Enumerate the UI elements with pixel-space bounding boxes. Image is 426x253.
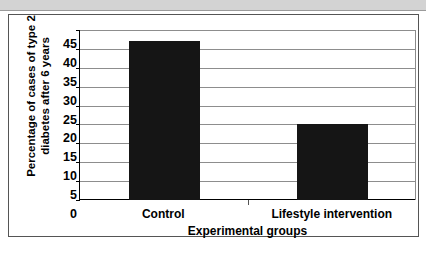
- y-tick-label-10: 10: [53, 170, 77, 182]
- y-tick-label-20: 20: [53, 132, 77, 144]
- x-tick-label-control: Control: [142, 207, 185, 221]
- chart-frame: Percentage of cases of type 2 diabetes a…: [8, 14, 419, 237]
- chart-figure: Percentage of cases of type 2 diabetes a…: [0, 0, 426, 253]
- bar-lifestyle-intervention[interactable]: [297, 124, 368, 200]
- y-axis-tick-labels: 454035302520151050: [53, 37, 77, 207]
- x-axis-tick-labels: ControlLifestyle intervention: [79, 207, 416, 225]
- y-tick-label-5: 5: [53, 189, 77, 201]
- y-axis-title: Percentage of cases of type 2 diabetes a…: [21, 11, 55, 181]
- top-gray-strip: [0, 0, 426, 11]
- category-separator-1: [248, 200, 249, 205]
- y-axis-title-line-1: Percentage of cases of type 2: [24, 15, 38, 177]
- y-tick-label-45: 45: [53, 38, 77, 50]
- y-tickmark-0: [76, 200, 80, 201]
- x-axis-title: Experimental groups: [79, 224, 416, 238]
- bar-series: [80, 30, 415, 200]
- bar-control[interactable]: [129, 41, 200, 200]
- y-tick-label-40: 40: [53, 57, 77, 69]
- y-tick-label-0: 0: [53, 208, 77, 220]
- y-tick-label-15: 15: [53, 151, 77, 163]
- y-tick-label-35: 35: [53, 76, 77, 88]
- y-tick-label-30: 30: [53, 95, 77, 107]
- y-tick-label-25: 25: [53, 114, 77, 126]
- y-axis-title-line-2: diabetes after 6 years: [38, 37, 52, 155]
- x-tick-label-lifestyle-intervention: Lifestyle intervention: [271, 207, 392, 221]
- plot-area: [79, 30, 416, 200]
